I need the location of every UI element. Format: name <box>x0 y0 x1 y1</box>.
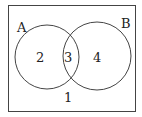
universe-region-label: 1 <box>64 90 72 105</box>
venn-diagram: A B 2 3 4 1 <box>0 0 142 117</box>
region-a-only-label: 2 <box>36 50 44 65</box>
set-a-label: A <box>16 20 27 35</box>
intersection-label: 3 <box>64 50 72 65</box>
region-b-only-label: 4 <box>93 50 101 65</box>
set-b-label: B <box>121 16 131 31</box>
